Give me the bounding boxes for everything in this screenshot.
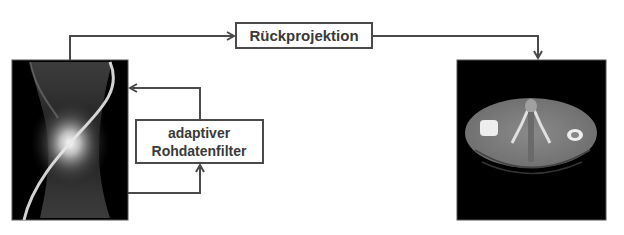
sinogram-image xyxy=(12,60,128,220)
filter-box: adaptiver Rohdatenfilter xyxy=(136,120,263,163)
backprojection-label: Rückprojektion xyxy=(249,27,358,44)
edge-filter-to-sinogram xyxy=(130,88,200,120)
ct-image xyxy=(457,60,606,220)
filter-label-line1: adaptiver xyxy=(168,125,231,141)
edge-sinogram-to-backprojection xyxy=(70,36,234,60)
flow-diagram: Rückprojektion adaptiver Rohdatenfilter xyxy=(0,0,624,235)
edge-backprojection-to-ct xyxy=(372,36,538,58)
backprojection-box: Rückprojektion xyxy=(236,23,372,48)
edge-sinogram-to-filter xyxy=(128,165,200,193)
filter-label-line2: Rohdatenfilter xyxy=(152,143,247,159)
